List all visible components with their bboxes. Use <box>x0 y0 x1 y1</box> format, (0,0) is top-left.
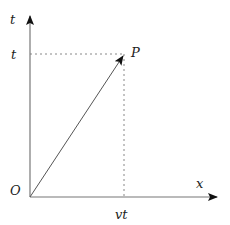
vector-op <box>30 56 123 197</box>
spacetime-diagram: t t P O x vt <box>0 0 230 225</box>
x-axis-label: x <box>196 176 204 191</box>
x-tick-label: vt <box>115 207 128 222</box>
origin-label: O <box>10 183 21 198</box>
t-axis-label: t <box>10 12 16 27</box>
t-tick-label: t <box>11 47 17 62</box>
point-label: P <box>130 45 140 60</box>
